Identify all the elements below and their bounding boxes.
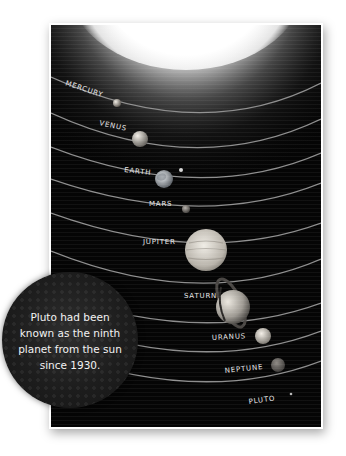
callout-line: planet from the sun bbox=[11, 341, 129, 357]
label-mars: MARS bbox=[149, 200, 172, 208]
planet-mercury bbox=[113, 99, 121, 107]
planet-neptune bbox=[271, 358, 285, 372]
label-jupiter: JUPITER bbox=[142, 238, 176, 246]
planet-earth bbox=[155, 170, 173, 188]
earth-moon-icon bbox=[179, 168, 183, 172]
page: MERCURY VENUS EARTH MARS JUPITER SATURN … bbox=[0, 0, 346, 456]
planet-jupiter bbox=[185, 229, 227, 271]
callout-text: Pluto had been known as the ninth planet… bbox=[11, 309, 129, 373]
callout-line: known as the ninth bbox=[11, 325, 129, 341]
planet-uranus bbox=[255, 328, 271, 344]
callout-line: since 1930. bbox=[11, 357, 129, 373]
callout-bubble: Pluto had been known as the ninth planet… bbox=[2, 272, 138, 408]
planet-pluto bbox=[290, 393, 293, 396]
planet-mars bbox=[182, 205, 190, 213]
callout-line: Pluto had been bbox=[11, 309, 129, 325]
planet-venus bbox=[132, 131, 148, 147]
label-saturn: SATURN bbox=[184, 292, 217, 300]
